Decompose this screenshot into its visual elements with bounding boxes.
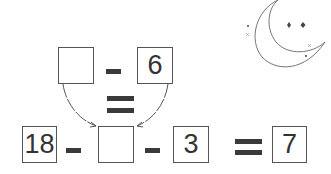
- bottom-minus-sign-1: [66, 148, 81, 153]
- bottom-minus-sign-2: [145, 148, 160, 153]
- result-equals-top-bar: [235, 139, 262, 144]
- link-equals-bottom-bar: [107, 108, 134, 113]
- link-equals-top-bar: [107, 96, 134, 101]
- crescent-moon-icon: [255, 0, 325, 67]
- result-number-box: 7: [272, 126, 307, 163]
- result-equals-bottom-bar: [235, 150, 262, 155]
- bottom-blank-box[interactable]: [98, 126, 134, 163]
- arrows: [63, 84, 168, 127]
- top-right-number-box: 6: [137, 47, 173, 84]
- top-left-blank-box[interactable]: [58, 47, 94, 84]
- bottom-number-box-3: 3: [173, 126, 209, 163]
- top-minus-sign: [106, 69, 121, 74]
- bottom-number-box-1: 18: [22, 126, 57, 163]
